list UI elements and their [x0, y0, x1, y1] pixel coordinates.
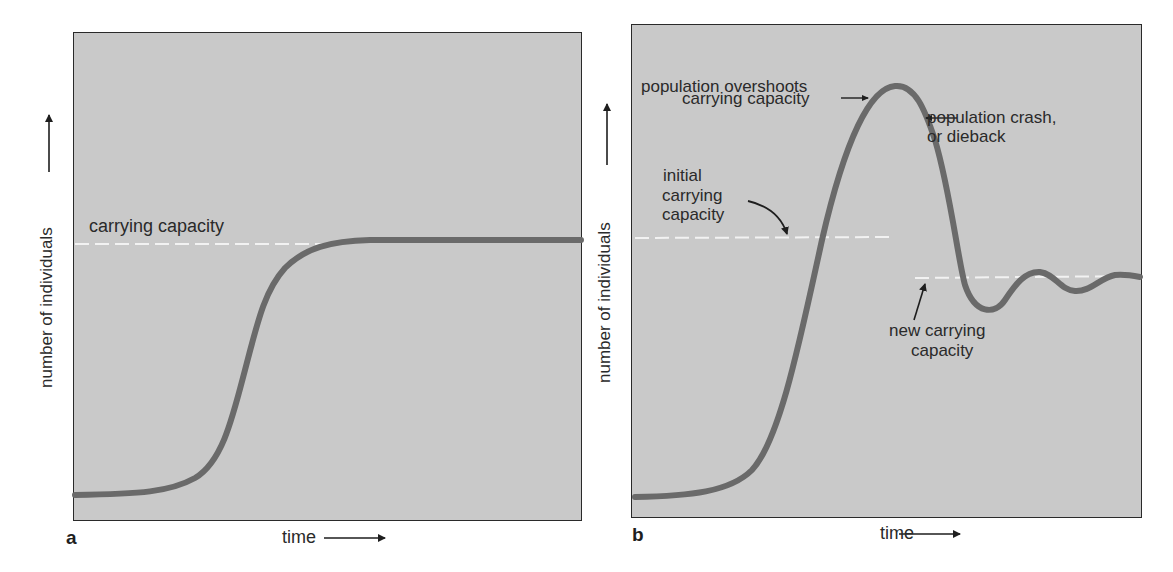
logistic-growth-curve	[75, 240, 581, 495]
initial-carrying-capacity-line2: carrying	[662, 186, 722, 206]
crash-label-line2: or dieback	[927, 127, 1005, 147]
panel-letter-b: b	[632, 524, 644, 546]
x-axis-label-b: time	[880, 523, 914, 543]
crash-label-line1: population crash,	[927, 108, 1056, 128]
x-axis-label-a: time	[282, 527, 316, 547]
overshoot-curve	[635, 86, 1140, 497]
new-carrying-capacity-arrow	[914, 284, 925, 320]
diagram-graphics	[0, 0, 1173, 572]
overshoot-label-line2: carrying capacity	[682, 89, 810, 109]
y-axis-label-b: number of individuals	[595, 222, 615, 383]
initial-carrying-capacity-line3: capacity	[662, 205, 724, 225]
y-axis-label-a: number of individuals	[37, 227, 57, 388]
initial-carrying-capacity-line	[635, 237, 895, 238]
initial-carrying-capacity-line1: initial	[663, 166, 702, 186]
panel-letter-a: a	[66, 527, 77, 549]
initial-carrying-capacity-arrow	[748, 201, 787, 234]
new-carrying-capacity-line2: capacity	[911, 341, 973, 361]
carrying-capacity-label: carrying capacity	[89, 216, 224, 236]
new-carrying-capacity-line1: new carrying	[889, 321, 985, 341]
